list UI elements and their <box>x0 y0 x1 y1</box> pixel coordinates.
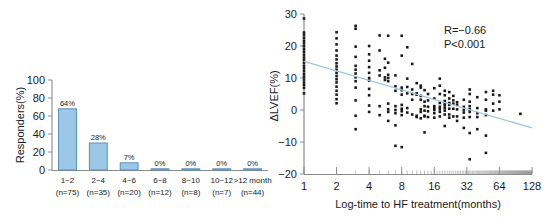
scatter-point[interactable] <box>400 86 403 89</box>
scatter-point[interactable] <box>387 102 390 105</box>
scatter-point[interactable] <box>427 99 430 102</box>
bar[interactable] <box>213 169 231 170</box>
scatter-point[interactable] <box>400 93 403 96</box>
scatter-point[interactable] <box>335 62 338 65</box>
scatter-point[interactable] <box>335 54 338 57</box>
scatter-point[interactable] <box>468 158 471 161</box>
bar[interactable] <box>89 143 107 170</box>
scatter-point[interactable] <box>448 91 451 94</box>
scatter-point[interactable] <box>433 112 436 115</box>
scatter-point[interactable] <box>492 102 495 105</box>
scatter-point[interactable] <box>406 111 409 114</box>
scatter-point[interactable] <box>394 145 397 148</box>
scatter-point[interactable] <box>335 85 338 88</box>
scatter-point[interactable] <box>448 116 451 119</box>
bar[interactable] <box>120 163 138 170</box>
scatter-point[interactable] <box>439 77 442 80</box>
scatter-point[interactable] <box>439 115 442 118</box>
scatter-point[interactable] <box>303 17 306 20</box>
scatter-point[interactable] <box>439 111 442 114</box>
scatter-point[interactable] <box>335 31 338 34</box>
scatter-point[interactable] <box>452 107 455 110</box>
scatter-point[interactable] <box>492 90 495 93</box>
scatter-point[interactable] <box>443 94 446 97</box>
scatter-point[interactable] <box>368 88 371 91</box>
scatter-point[interactable] <box>400 34 403 37</box>
scatter-point[interactable] <box>335 37 338 40</box>
scatter-point[interactable] <box>354 72 357 75</box>
scatter-point[interactable] <box>400 54 403 57</box>
scatter-point[interactable] <box>498 94 501 97</box>
scatter-point[interactable] <box>463 98 466 101</box>
scatter-point[interactable] <box>335 65 338 68</box>
scatter-point[interactable] <box>406 46 409 49</box>
scatter-point[interactable] <box>387 80 390 83</box>
scatter-point[interactable] <box>387 74 390 77</box>
scatter-point[interactable] <box>485 109 488 112</box>
scatter-point[interactable] <box>456 115 459 118</box>
scatter-point[interactable] <box>378 105 381 108</box>
scatter-point[interactable] <box>443 107 446 110</box>
scatter-point[interactable] <box>419 117 422 120</box>
scatter-point[interactable] <box>452 115 455 118</box>
scatter-point[interactable] <box>394 124 397 127</box>
scatter-point[interactable] <box>433 116 436 119</box>
scatter-point[interactable] <box>394 74 397 77</box>
scatter-point[interactable] <box>303 92 306 95</box>
scatter-point[interactable] <box>354 99 357 102</box>
scatter-point[interactable] <box>433 109 436 112</box>
scatter-point[interactable] <box>463 116 466 119</box>
scatter-point[interactable] <box>492 109 495 112</box>
scatter-point[interactable] <box>423 105 426 108</box>
scatter-point[interactable] <box>427 116 430 119</box>
scatter-point[interactable] <box>378 49 381 52</box>
scatter-point[interactable] <box>354 65 357 68</box>
scatter-point[interactable] <box>519 113 522 116</box>
scatter-point[interactable] <box>406 92 409 95</box>
scatter-point[interactable] <box>415 82 418 85</box>
scatter-point[interactable] <box>468 111 471 114</box>
scatter-point[interactable] <box>303 67 306 70</box>
scatter-point[interactable] <box>463 109 466 112</box>
scatter-point[interactable] <box>456 120 459 123</box>
scatter-point[interactable] <box>387 34 390 37</box>
scatter-point[interactable] <box>378 34 381 37</box>
scatter-point[interactable] <box>452 95 455 98</box>
scatter-point[interactable] <box>415 116 418 119</box>
scatter-point[interactable] <box>335 49 338 52</box>
scatter-point[interactable] <box>303 34 306 37</box>
scatter-point[interactable] <box>468 105 471 108</box>
scatter-point[interactable] <box>463 127 466 130</box>
scatter-point[interactable] <box>406 107 409 110</box>
scatter-point[interactable] <box>354 45 357 48</box>
scatter-point[interactable] <box>476 107 479 110</box>
scatter-point[interactable] <box>303 70 306 73</box>
scatter-point[interactable] <box>476 96 479 99</box>
scatter-point[interactable] <box>303 73 306 76</box>
scatter-point[interactable] <box>378 74 381 77</box>
scatter-point[interactable] <box>378 114 381 117</box>
scatter-point[interactable] <box>406 77 409 80</box>
scatter-point[interactable] <box>476 116 479 119</box>
scatter-point[interactable] <box>394 105 397 108</box>
scatter-point[interactable] <box>303 81 306 84</box>
scatter-point[interactable] <box>335 78 338 81</box>
scatter-point[interactable] <box>303 42 306 45</box>
scatter-point[interactable] <box>492 93 495 96</box>
scatter-point[interactable] <box>423 109 426 112</box>
scatter-point[interactable] <box>443 113 446 116</box>
scatter-point[interactable] <box>354 114 357 117</box>
scatter-point[interactable] <box>335 58 338 61</box>
scatter-point[interactable] <box>303 31 306 34</box>
scatter-point[interactable] <box>423 131 426 134</box>
scatter-point[interactable] <box>485 152 488 155</box>
scatter-point[interactable] <box>427 93 430 96</box>
bar[interactable] <box>244 169 262 170</box>
scatter-point[interactable] <box>427 106 430 109</box>
scatter-point[interactable] <box>303 78 306 81</box>
scatter-point[interactable] <box>303 65 306 68</box>
scatter-point[interactable] <box>411 63 414 66</box>
scatter-point[interactable] <box>411 98 414 101</box>
scatter-point[interactable] <box>452 99 455 102</box>
scatter-point[interactable] <box>354 128 357 131</box>
